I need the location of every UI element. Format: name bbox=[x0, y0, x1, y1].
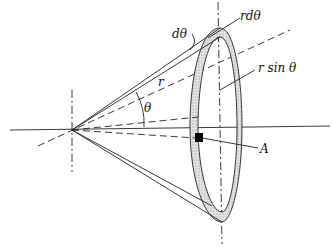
leader-a bbox=[202, 138, 258, 148]
oblique-axis bbox=[38, 30, 290, 146]
label-rdtheta: rdθ bbox=[240, 9, 261, 23]
label-theta: θ bbox=[144, 101, 152, 115]
label-dtheta: dθ bbox=[172, 27, 188, 41]
horizontal-axis bbox=[10, 126, 330, 130]
label-a: A bbox=[259, 142, 269, 156]
area-element-a bbox=[195, 133, 203, 142]
label-r: r bbox=[158, 75, 165, 89]
ring-element bbox=[190, 28, 242, 222]
cone-ring-diagram: dθ rdθ r θ r sin θ A bbox=[0, 0, 333, 251]
dtheta-arc bbox=[190, 34, 195, 50]
dashed-line-to-a bbox=[72, 130, 196, 138]
label-rsintheta: r sin θ bbox=[258, 61, 297, 75]
